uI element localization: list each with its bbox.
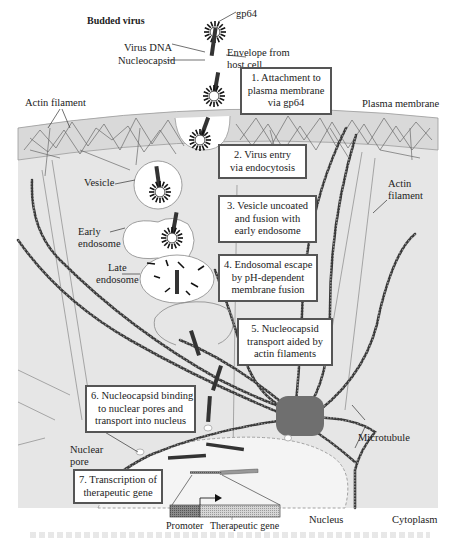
nuclear-pore-line1: Nuclear [70, 444, 103, 456]
step-1-box: 1. Attachment to plasma membrane via gp6… [240, 67, 332, 115]
step-7-line1: 7. Transcription of [79, 474, 157, 487]
envelope-label-line1: Envelope from [227, 47, 290, 59]
step-6-line3: transport into nucleus [91, 415, 190, 428]
late-endosome-label: Late endosome [96, 262, 139, 286]
plasma-membrane-label: Plasma membrane [362, 98, 439, 110]
microtubule-label: Microtubule [358, 432, 410, 444]
step-3-line1: 3. Vesicle uncoated [224, 200, 311, 213]
step-3-line2: and fusion with [224, 213, 311, 226]
budded-virus-label: Budded virus [87, 15, 145, 27]
vesicle-label: Vesicle [84, 177, 114, 189]
step-1-line3: via gp64 [246, 97, 326, 110]
step-3-line3: early endosome [224, 225, 311, 238]
therapeutic-gene-label: Therapeutic gene [210, 520, 279, 532]
actin-filament-right-line1: Actin [388, 178, 423, 190]
step-6-line2: to nuclear pores and [91, 403, 190, 416]
early-endosome-line2: endosome [78, 238, 121, 250]
microtubule-organizing-center [276, 396, 324, 436]
step-6-box: 6. Nucleocapsid binding to nuclear pores… [85, 385, 196, 433]
step-5-line1: 5. Nucleocapsid [243, 323, 327, 336]
step-2-box: 2. Virus entry via endocytosis [218, 144, 307, 179]
step-6-line1: 6. Nucleocapsid binding [91, 390, 190, 403]
promoter-block [170, 505, 200, 517]
nuclear-pore-line2: pore [70, 456, 103, 468]
nucleocapsid-label: Nucleocapsid [118, 55, 175, 67]
actin-filament-top-label: Actin filament [25, 97, 86, 109]
step-3-box: 3. Vesicle uncoated and fusion with earl… [218, 195, 317, 243]
step-5-box: 5. Nucleocapsid transport aided by actin… [237, 318, 333, 366]
step-7-line2: therapeutic gene [79, 487, 157, 500]
virus-dna-label: Virus DNA [124, 42, 172, 54]
figure-caption-blurred [30, 532, 430, 538]
budded-virus [204, 21, 226, 56]
step-1-line2: plasma membrane [246, 85, 326, 98]
step-1-line1: 1. Attachment to [246, 72, 326, 85]
early-endosome-label: Early endosome [78, 226, 121, 250]
late-endosome-line2: endosome [96, 274, 139, 286]
promoter-label: Promoter [166, 520, 203, 532]
attaching-virus [203, 72, 225, 107]
step-5-line2: transport aided by [243, 336, 327, 349]
step-4-line3: membrane fusion [224, 284, 312, 297]
gp64-label: gp64 [236, 8, 257, 20]
actin-filament-right-line2: filament [388, 190, 423, 202]
step-5-line3: actin filaments [243, 348, 327, 361]
actin-filament-right-label: Actin filament [388, 178, 423, 202]
nuclear-pore-label: Nuclear pore [70, 444, 103, 468]
step-4-line1: 4. Endosomal escape [224, 259, 312, 272]
late-endosome [140, 255, 214, 303]
cytoplasm-label: Cytoplasm [392, 514, 438, 526]
step-2-line2: via endocytosis [224, 162, 301, 175]
late-endosome-line1: Late [96, 262, 139, 274]
step-4-line2: by pH-dependent [224, 272, 312, 285]
early-endosome-line1: Early [78, 226, 121, 238]
vesicle [134, 161, 182, 209]
step-4-box: 4. Endosomal escape by pH-dependent memb… [218, 254, 318, 302]
nucleus-label: Nucleus [309, 514, 343, 526]
therapeutic-gene-block [200, 505, 280, 517]
step-2-line1: 2. Virus entry [224, 149, 301, 162]
step-7-box: 7. Transcription of therapeutic gene [73, 469, 163, 504]
